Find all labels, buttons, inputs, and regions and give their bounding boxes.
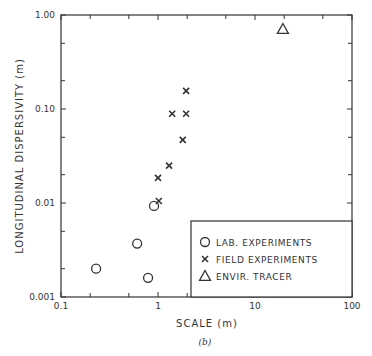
y-axis-title: LONGITUDINAL DISPERSIVITY (m) <box>14 58 25 254</box>
y-axis-tick-labels: 0.0010.010.101.00 <box>29 10 55 302</box>
x-tick-label: 100 <box>343 301 360 311</box>
y-tick-label: 1.00 <box>35 10 55 20</box>
circle-marker-icon <box>133 239 142 248</box>
x-tick-label: 10 <box>249 301 261 311</box>
x-axis-tick-labels: 0.1110100 <box>54 301 361 311</box>
legend-label: FIELD EXPERIMENTS <box>216 255 318 265</box>
figure-caption: (b) <box>199 337 212 347</box>
x-tick-label: 0.1 <box>54 301 68 311</box>
x-marker-icon <box>156 198 162 204</box>
y-tick-label: 0.10 <box>35 104 55 114</box>
x-tick-label: 1 <box>155 301 161 311</box>
triangle-marker-icon <box>277 23 288 33</box>
legend-label: LAB. EXPERIMENTS <box>216 238 312 248</box>
y-tick-label: 0.001 <box>29 292 55 302</box>
circle-marker-icon <box>92 264 101 273</box>
legend-label: ENVIR. TRACER <box>216 272 292 282</box>
legend: LAB. EXPERIMENTSFIELD EXPERIMENTSENVIR. … <box>191 221 352 297</box>
x-marker-icon <box>155 175 161 181</box>
x-marker-icon <box>169 111 175 117</box>
circle-marker-icon <box>144 273 153 282</box>
x-axis-title: SCALE (m) <box>176 318 238 329</box>
y-tick-label: 0.01 <box>35 198 55 208</box>
x-marker-icon <box>180 137 186 143</box>
x-marker-icon <box>166 163 172 169</box>
x-marker-icon <box>183 111 189 117</box>
scatter-chart: 0.1110100 0.0010.010.101.00 SCALE (m) LO… <box>0 0 372 356</box>
x-marker-icon <box>183 88 189 94</box>
